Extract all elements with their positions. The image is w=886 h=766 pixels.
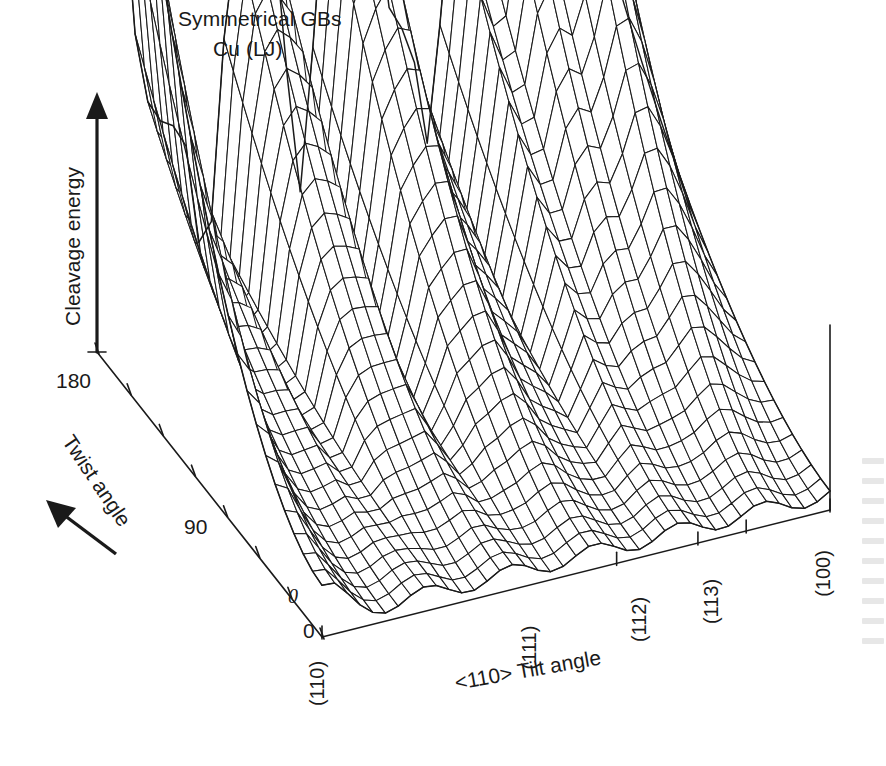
tilt-tick-label-113: (113) (700, 570, 723, 634)
vertical-axis-origin-label: 0 (303, 620, 315, 641)
y-axis-label: Cleavage energy (62, 157, 83, 337)
up-arrow-icon (86, 92, 108, 119)
twist-tick-label-0: 0 (288, 586, 298, 606)
figure-title-line-2: Cu (LJ) (213, 38, 283, 59)
tilt-tick-label-111: (111) (518, 616, 541, 680)
tilt-tick-label-110: (110) (306, 652, 329, 716)
twist-tick-label-90: 90 (184, 516, 207, 537)
figure-title-line-1: Symmetrical GBs (178, 8, 342, 29)
tilt-tick-label-112: (112) (628, 588, 651, 652)
figure-3d-surface-plot: Symmetrical GBs Cu (LJ) Cleavage energy … (0, 0, 886, 766)
twist-tick-label-180: 180 (56, 370, 91, 391)
page-margin-scan-artifact (862, 458, 884, 744)
surface-plot-canvas (0, 0, 886, 766)
tilt-tick-label-100: (100) (812, 542, 835, 606)
